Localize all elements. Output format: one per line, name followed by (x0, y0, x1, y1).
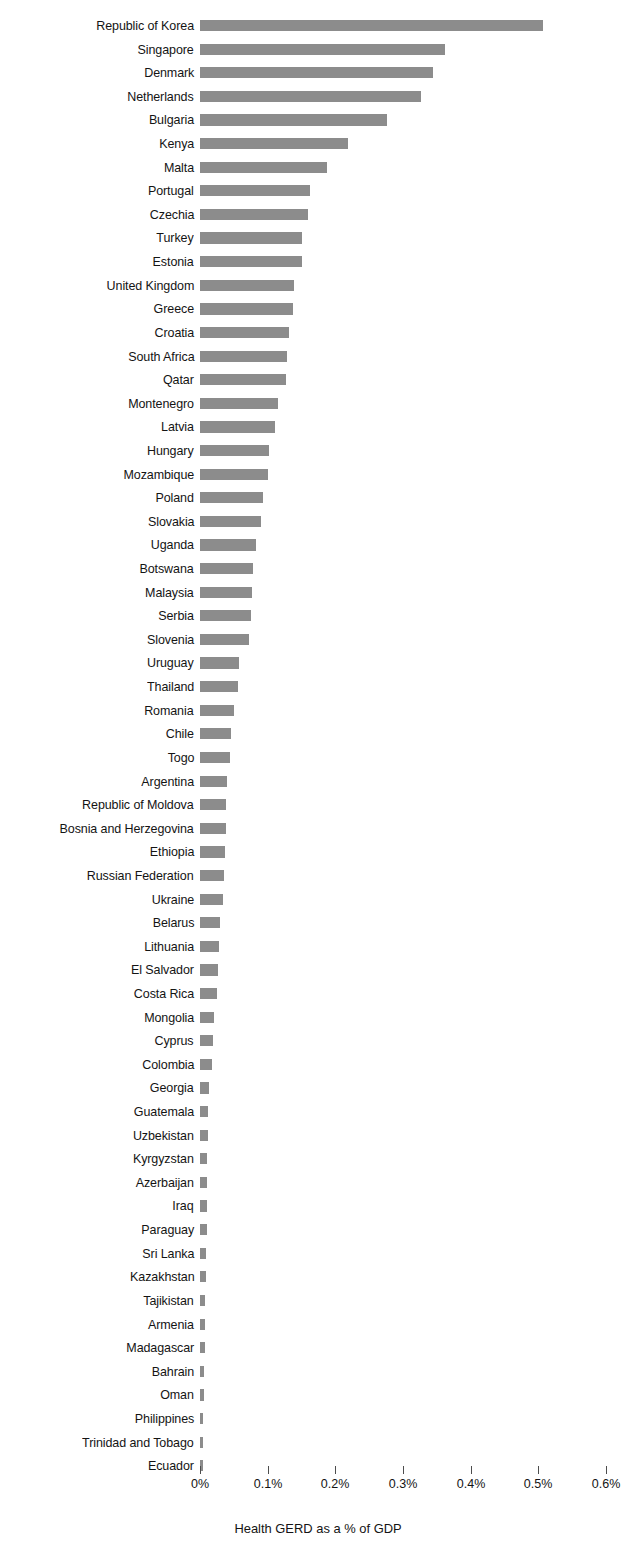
chart-row: Czechia (0, 203, 636, 227)
bar-track (200, 1124, 636, 1148)
category-label: Uzbekistan (133, 1124, 194, 1148)
x-axis-title: Health GERD as a % of GDP (0, 1521, 636, 1536)
bar-track (200, 250, 636, 274)
category-label: Georgia (150, 1076, 194, 1100)
category-label: Slovenia (147, 628, 194, 652)
bar-track (200, 415, 636, 439)
bar (200, 421, 275, 432)
bar-track (200, 1147, 636, 1171)
category-label: Poland (156, 486, 194, 510)
chart-row: Iraq (0, 1194, 636, 1218)
bar (200, 964, 218, 975)
chart-row: Kyrgyzstan (0, 1147, 636, 1171)
x-axis-tick-label: 0.1% (253, 1476, 281, 1491)
category-label: Slovakia (147, 510, 194, 534)
category-label: Latvia (161, 415, 194, 439)
category-label: Qatar (163, 368, 194, 392)
category-label: Estonia (153, 250, 194, 274)
bar (200, 1319, 205, 1330)
chart-row: Belarus (0, 911, 636, 935)
bar (200, 539, 256, 550)
category-label: Romania (145, 699, 194, 723)
bar (200, 1413, 203, 1424)
bar-track (200, 746, 636, 770)
bar-track (200, 61, 636, 85)
chart-row: Trinidad and Tobago (0, 1431, 636, 1455)
chart-row: Thailand (0, 675, 636, 699)
bar-track (200, 1053, 636, 1077)
bar (200, 516, 261, 527)
bar (200, 327, 289, 338)
category-label: Bahrain (152, 1360, 194, 1384)
bar (200, 776, 227, 787)
category-label: Botswana (140, 557, 194, 581)
chart-row: Romania (0, 699, 636, 723)
x-axis-tick-label: 0% (191, 1476, 209, 1491)
bar-track (200, 1407, 636, 1431)
category-label: Guatemala (134, 1100, 194, 1124)
bar (200, 162, 327, 173)
chart-row: Poland (0, 486, 636, 510)
bar (200, 587, 252, 598)
bar-track (200, 722, 636, 746)
bar-track (200, 1171, 636, 1195)
chart-row: Argentina (0, 770, 636, 794)
bar-track (200, 817, 636, 841)
category-label: Netherlands (128, 85, 194, 109)
chart-row: Paraguay (0, 1218, 636, 1242)
category-label: Bulgaria (149, 108, 194, 132)
bar (200, 1437, 203, 1448)
bar (200, 1130, 208, 1141)
category-label: Republic of Korea (96, 14, 194, 38)
x-axis-tick (403, 1466, 404, 1474)
chart-row: Bulgaria (0, 108, 636, 132)
x-axis-tick (268, 1466, 269, 1474)
chart-row: Armenia (0, 1313, 636, 1337)
bar-track (200, 840, 636, 864)
chart-row: Georgia (0, 1076, 636, 1100)
bar (200, 114, 387, 125)
bar-track (200, 699, 636, 723)
chart-row: Montenegro (0, 392, 636, 416)
x-axis-tick (335, 1466, 336, 1474)
category-label: Russian Federation (87, 864, 194, 888)
chart-row: Botswana (0, 557, 636, 581)
bar-track (200, 345, 636, 369)
bar (200, 1177, 207, 1188)
chart-row: Mongolia (0, 1006, 636, 1030)
bar (200, 91, 421, 102)
category-label: Kazakhstan (130, 1265, 194, 1289)
bar (200, 1059, 212, 1070)
bar (200, 209, 308, 220)
bar-track (200, 1100, 636, 1124)
bar (200, 1224, 207, 1235)
category-label: Mongolia (144, 1006, 194, 1030)
category-label: United Kingdom (106, 274, 194, 298)
category-label: Philippines (135, 1407, 194, 1431)
bar-track (200, 1194, 636, 1218)
category-label: El Salvador (131, 958, 194, 982)
bar-track (200, 439, 636, 463)
bar (200, 563, 253, 574)
x-axis-tick-label: 0.4% (456, 1476, 484, 1491)
category-label: Togo (167, 746, 194, 770)
bar (200, 1200, 207, 1211)
bar (200, 846, 225, 857)
bar (200, 398, 278, 409)
chart-row: Madagascar (0, 1336, 636, 1360)
category-label: Singapore (138, 38, 194, 62)
bar-track (200, 1313, 636, 1337)
chart-row: Bahrain (0, 1360, 636, 1384)
x-axis: 0%0.1%0.2%0.3%0.4%0.5%0.6% (0, 1466, 636, 1516)
category-label: Denmark (144, 61, 194, 85)
bar (200, 1295, 205, 1306)
category-label: Chile (166, 722, 194, 746)
bar (200, 1035, 213, 1046)
chart-row: Uganda (0, 533, 636, 557)
x-axis-tick (471, 1466, 472, 1474)
bar (200, 1106, 208, 1117)
chart-row: Sri Lanka (0, 1242, 636, 1266)
chart-row: Kenya (0, 132, 636, 156)
chart-row: Malaysia (0, 581, 636, 605)
chart-row: Russian Federation (0, 864, 636, 888)
